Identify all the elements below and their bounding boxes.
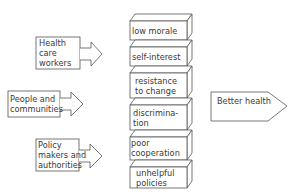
barrier-label-low-morale: low morale <box>132 26 177 36</box>
outcome-label: Better health <box>217 96 271 106</box>
barrier-label-line: resistance <box>135 76 177 86</box>
source-label-line: makers and <box>38 150 86 160</box>
source-label-line: care <box>39 48 71 58</box>
barrier-label-line: discrimina- <box>133 108 178 118</box>
barrier-label-unhelpful-policies: unhelpful policies <box>136 168 174 188</box>
barrier-label-discrimination: discrimina- tion <box>133 108 178 128</box>
source-label-line: Policy <box>38 140 86 150</box>
barrier-label-line: unhelpful <box>136 168 174 178</box>
barrier-label-resistance-to-change: resistance to change <box>135 76 177 96</box>
source-label-line: authorities <box>38 160 86 170</box>
barrier-label-line: tion <box>133 118 178 128</box>
barrier-label-line: to change <box>135 86 177 96</box>
barrier-label-line: cooperation <box>131 148 180 158</box>
source-label-line: workers <box>39 58 71 68</box>
source-label-health-care-workers: Health care workers <box>39 38 71 68</box>
source-label-people-communities: People and communities <box>10 94 63 114</box>
source-label-line: communities <box>10 104 63 114</box>
source-label-line: Health <box>39 38 71 48</box>
barrier-label-self-interest: self-interest <box>132 52 180 62</box>
source-label-line: People and <box>10 94 63 104</box>
barrier-label-line: self-interest <box>132 52 180 62</box>
barrier-label-poor-cooperation: poor cooperation <box>131 138 180 158</box>
barrier-label-line: low morale <box>132 26 177 36</box>
barrier-label-line: poor <box>131 138 180 148</box>
barrier-label-line: policies <box>136 178 174 188</box>
source-label-policy-makers: Policy makers and authorities <box>38 140 86 170</box>
